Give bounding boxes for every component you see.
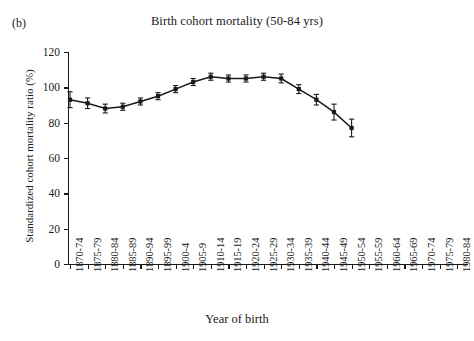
x-tick (422, 264, 423, 269)
data-point (349, 119, 354, 137)
x-tick (334, 264, 335, 269)
data-point (279, 74, 284, 83)
x-tick (176, 264, 177, 269)
x-tick (193, 264, 194, 269)
series-line (70, 77, 352, 128)
data-point (103, 104, 108, 113)
data-point (261, 73, 266, 80)
x-tick (281, 264, 282, 269)
data-point (314, 94, 319, 105)
x-tick (369, 264, 370, 269)
x-tick (404, 264, 405, 269)
figure-panel: (b) Birth cohort mortality (50-84 yrs) S… (0, 0, 474, 341)
x-tick (264, 264, 265, 269)
y-tick (64, 264, 69, 265)
data-series-plot (68, 52, 468, 264)
x-tick (457, 264, 458, 269)
x-tick (316, 264, 317, 269)
chart-title: Birth cohort mortality (50-84 yrs) (0, 14, 474, 29)
data-point (85, 98, 90, 109)
x-tick (140, 264, 141, 269)
y-tick-label: 60 (49, 152, 61, 164)
y-tick-label: 100 (43, 81, 60, 93)
y-tick-label: 0 (54, 258, 60, 270)
data-point (67, 92, 72, 108)
x-tick (105, 264, 106, 269)
x-tick (158, 264, 159, 269)
y-tick-label: 40 (49, 187, 61, 199)
data-point (155, 93, 160, 100)
x-tick (299, 264, 300, 269)
x-axis-title: Year of birth (0, 312, 474, 327)
page-bleed-text (0, 0, 474, 5)
data-point (138, 98, 143, 105)
data-point (296, 85, 301, 94)
data-point (226, 75, 231, 82)
x-tick (88, 264, 89, 269)
y-axis-title: Standardized cohort mortality ratio (%) (23, 41, 35, 271)
data-point (208, 73, 213, 80)
x-tick (70, 264, 71, 269)
x-tick (211, 264, 212, 269)
y-tick-label: 120 (43, 46, 60, 58)
y-tick-label: 20 (49, 223, 61, 235)
y-tick-label: 80 (49, 117, 61, 129)
x-tick (352, 264, 353, 269)
data-point (191, 79, 196, 86)
data-point (243, 75, 248, 82)
x-tick (440, 264, 441, 269)
data-point (331, 104, 336, 120)
x-tick (246, 264, 247, 269)
data-point (120, 103, 125, 110)
plot-area: 020406080100120 1870-741875-791880-84188… (68, 52, 468, 264)
data-point (173, 86, 178, 93)
x-tick (228, 264, 229, 269)
x-tick (123, 264, 124, 269)
x-tick (387, 264, 388, 269)
